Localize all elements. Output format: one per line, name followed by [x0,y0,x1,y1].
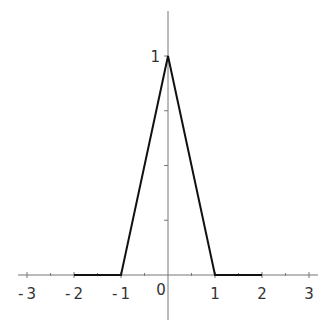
minus-sign: - [18,285,23,303]
chart-plot-area: -3-2-101231 [0,0,336,332]
x-tick-label: 1 [210,285,220,303]
tick-labels: -3-2-101231 [18,48,314,303]
digit: 3 [26,285,36,303]
minus-sign: - [65,285,70,303]
x-tick-label: 2 [257,285,267,303]
minus-sign: - [112,285,117,303]
y-tick-label: 1 [150,48,160,66]
x-tick-label: -1 [112,285,130,303]
digit: 2 [73,285,83,303]
x-tick-label: 0 [156,281,166,299]
x-tick-label: 3 [304,285,314,303]
x-tick-label: -3 [18,285,36,303]
x-tick-label: -2 [65,285,83,303]
digit: 1 [120,285,130,303]
